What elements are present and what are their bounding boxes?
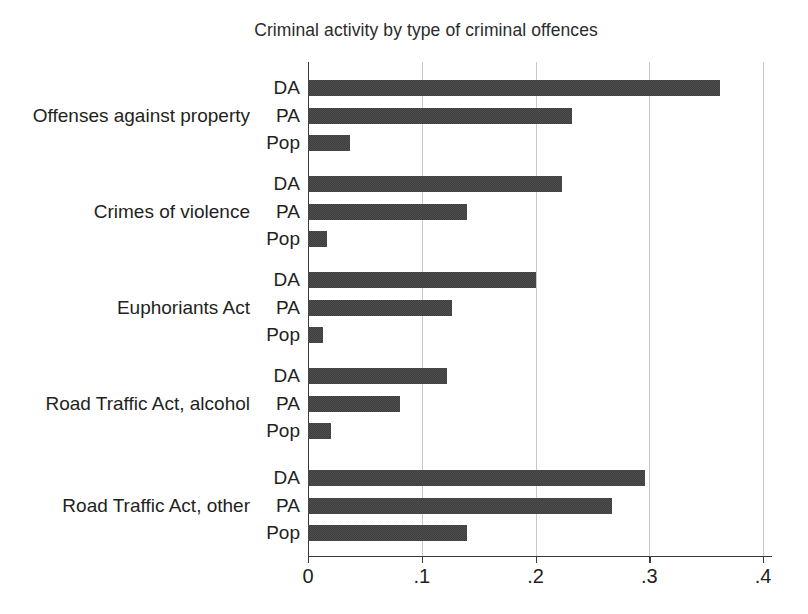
x-axis-line	[308, 556, 772, 557]
x-tick-.2	[536, 556, 537, 563]
series-label-pop: Pop	[252, 228, 300, 250]
bar	[308, 498, 612, 514]
bar	[308, 204, 467, 220]
series-label-column: DAPAPopDAPAPopDAPAPopDAPAPopDAPAPop	[248, 62, 300, 556]
bar	[308, 525, 467, 541]
gridline-.3	[649, 62, 650, 556]
bar	[308, 176, 562, 192]
bar	[308, 272, 536, 288]
series-label-pa: PA	[252, 201, 300, 223]
bar	[308, 327, 323, 343]
series-label-pop: Pop	[252, 522, 300, 544]
series-label-pop: Pop	[252, 324, 300, 346]
bar	[308, 108, 572, 124]
bar	[308, 396, 400, 412]
category-label: Euphoriants Act	[0, 297, 250, 319]
category-label: Road Traffic Act, alcohol	[0, 393, 250, 415]
series-label-da: DA	[252, 467, 300, 489]
series-label-da: DA	[252, 173, 300, 195]
series-label-pa: PA	[252, 495, 300, 517]
bar	[308, 80, 720, 96]
series-label-pa: PA	[252, 297, 300, 319]
bar	[308, 231, 327, 247]
x-tick-label-.2: .2	[527, 565, 544, 588]
plot-area	[308, 62, 763, 556]
chart-title: Criminal activity by type of criminal of…	[0, 20, 808, 41]
x-tick-label-.3: .3	[641, 565, 658, 588]
bar	[308, 300, 452, 316]
series-label-da: DA	[252, 77, 300, 99]
series-label-pa: PA	[252, 105, 300, 127]
x-tick-label-.1: .1	[413, 565, 430, 588]
gridline-.4	[763, 62, 764, 556]
category-label-column: Offenses against propertyCrimes of viole…	[0, 62, 250, 556]
x-tick-label-0: 0	[302, 565, 313, 588]
series-label-pop: Pop	[252, 420, 300, 442]
x-tick-label-.4: .4	[755, 565, 772, 588]
x-tick-.1	[422, 556, 423, 563]
series-label-pop: Pop	[252, 132, 300, 154]
bar	[308, 135, 350, 151]
series-label-da: DA	[252, 365, 300, 387]
category-label: Offenses against property	[0, 105, 250, 127]
series-label-da: DA	[252, 269, 300, 291]
bar	[308, 470, 645, 486]
x-tick-.3	[649, 556, 650, 563]
category-label: Road Traffic Act, other	[0, 495, 250, 517]
bar	[308, 423, 331, 439]
x-tick-.4	[763, 556, 764, 563]
series-label-pa: PA	[252, 393, 300, 415]
category-label: Crimes of violence	[0, 201, 250, 223]
chart-root: Criminal activity by type of criminal of…	[0, 0, 808, 614]
bar	[308, 368, 447, 384]
x-tick-0	[308, 556, 309, 563]
